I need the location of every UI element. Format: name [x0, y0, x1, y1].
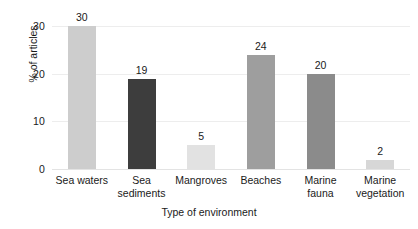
gridline [52, 74, 410, 75]
x-axis-category-label: Beaches [231, 174, 291, 187]
bar-value-label: 30 [76, 11, 88, 23]
x-axis-category-label-line: fauna [291, 187, 351, 200]
x-axis-category-label-line: vegetation [350, 187, 410, 200]
bar: 19 [128, 79, 156, 169]
y-axis-tick-label: 10 [33, 115, 45, 127]
bar: 5 [187, 145, 215, 169]
plot-area: 3019524202 [52, 12, 410, 169]
x-axis-category-label: Marinevegetation [350, 174, 410, 199]
bar-value-label: 24 [255, 40, 267, 52]
x-axis-category-label-line: Marine [350, 174, 410, 187]
y-axis-tick-label: 20 [33, 68, 45, 80]
x-axis-category-label-line: Sea [112, 174, 172, 187]
gridline [52, 169, 410, 170]
x-axis-category-label-line: sediments [112, 187, 172, 200]
x-axis-category-label: Seasediments [112, 174, 172, 199]
y-axis-ticks: 0102030 [0, 12, 45, 169]
gridline [52, 26, 410, 27]
y-axis-tick-label: 0 [39, 163, 45, 175]
x-axis-category-label: Sea waters [52, 174, 112, 187]
x-axis-category-label-line: Sea waters [52, 174, 112, 187]
x-axis-category-label: Mangroves [171, 174, 231, 187]
x-axis-category-label-line: Mangroves [171, 174, 231, 187]
y-axis-tick-label: 30 [33, 20, 45, 32]
x-axis-category-label-line: Marine [291, 174, 351, 187]
bar-value-label: 20 [315, 59, 327, 71]
bar: 2 [366, 160, 394, 170]
x-axis-category-label: Marinefauna [291, 174, 351, 199]
bar-value-label: 2 [377, 145, 383, 157]
bar-value-label: 5 [198, 130, 204, 142]
bar-chart: % of articles 0102030 3019524202 Sea wat… [0, 0, 418, 229]
bar: 30 [68, 26, 96, 169]
x-axis-category-label-line: Beaches [231, 174, 291, 187]
bar: 24 [247, 55, 275, 169]
gridline [52, 121, 410, 122]
x-axis-title: Type of environment [0, 206, 418, 218]
bar-value-label: 19 [136, 64, 148, 76]
bar: 20 [307, 74, 335, 169]
